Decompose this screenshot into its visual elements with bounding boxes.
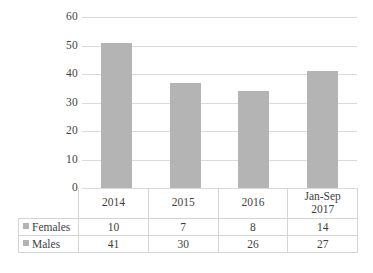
table-row: Females 10 7 8 14: [19, 219, 358, 236]
legend-item-males[interactable]: Males: [19, 236, 79, 253]
category-label-line: Jan-Sep: [288, 190, 357, 203]
y-axis-tick-label: 60: [66, 11, 78, 23]
y-axis-tick-label: 10: [66, 154, 78, 166]
y-axis-tick-label: 40: [66, 68, 78, 80]
legend-swatch-icon: [23, 223, 29, 229]
bar-2015[interactable]: [170, 83, 201, 188]
bar-slot: [151, 7, 220, 188]
bar-2014[interactable]: [101, 43, 132, 188]
legend-label: Males: [32, 238, 60, 251]
cell-males-2016: 26: [218, 236, 288, 253]
y-axis: 60 50 40 30 20 10 0: [52, 0, 78, 195]
data-table: 2014 2015 2016 Jan-Sep 2017 Females 10: [18, 188, 358, 253]
category-header-jan-sep-2017: Jan-Sep 2017: [288, 188, 358, 219]
cell-males-jan-sep-2017: 27: [288, 236, 358, 253]
cell-males-2015: 30: [148, 236, 218, 253]
cell-males-2014: 41: [79, 236, 149, 253]
y-axis-tick-label: 30: [66, 97, 78, 109]
y-axis-tick-label: 50: [66, 40, 78, 52]
category-label-line: 2016: [219, 196, 288, 209]
bar-slot: [220, 7, 289, 188]
category-label-line: 2017: [288, 203, 357, 216]
category-label-line: 2014: [79, 196, 148, 209]
bar-2016[interactable]: [238, 91, 269, 188]
bar-slot: [82, 7, 151, 188]
legend-item-females[interactable]: Females: [19, 219, 79, 236]
cell-females-2014: 10: [79, 219, 149, 236]
category-header-2015: 2015: [148, 188, 218, 219]
bar-jan-sep-2017[interactable]: [307, 71, 338, 188]
category-header-2016: 2016: [218, 188, 288, 219]
category-label-line: 2015: [149, 196, 218, 209]
bar-slot: [288, 7, 357, 188]
table-row-categories: 2014 2015 2016 Jan-Sep 2017: [19, 188, 358, 219]
legend-swatch-icon: [23, 240, 29, 246]
plot-area: 60 50 40 30 20 10 0: [0, 0, 373, 195]
cell-females-2016: 8: [218, 219, 288, 236]
y-axis-tick-label: 20: [66, 125, 78, 137]
legend-label: Females: [32, 221, 70, 234]
bar-chart-with-data-table: 60 50 40 30 20 10 0: [0, 0, 373, 273]
table-row: Males 41 30 26 27: [19, 236, 358, 253]
category-header-2014: 2014: [79, 188, 149, 219]
cell-females-2015: 7: [148, 219, 218, 236]
bars-layer: [82, 0, 357, 195]
cell-females-jan-sep-2017: 14: [288, 219, 358, 236]
table-corner-cell: [19, 188, 79, 219]
